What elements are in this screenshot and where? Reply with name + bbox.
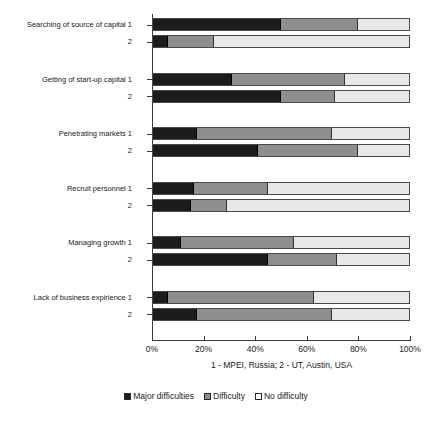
y-axis-tick bbox=[147, 314, 153, 315]
y-axis-tick bbox=[147, 151, 153, 152]
bar-segment-difficulty bbox=[281, 91, 335, 102]
bar-row bbox=[152, 90, 410, 103]
bar-segment-difficulty bbox=[168, 292, 314, 303]
y-axis-tick bbox=[147, 79, 153, 80]
legend-label-difficulty: Difficulty bbox=[213, 391, 245, 401]
bar-row bbox=[152, 35, 410, 48]
bar-segment-no-difficulty bbox=[227, 200, 409, 211]
bar-row bbox=[152, 127, 410, 140]
bar-segment-difficulty bbox=[268, 254, 337, 265]
x-axis-tick-label: 100% bbox=[399, 344, 421, 355]
category-label-searching-of-source-of-capital: Searching of source of capital 1 bbox=[27, 18, 132, 31]
x-axis-tick-label: 20% bbox=[195, 344, 212, 355]
row-label-2: 2 bbox=[128, 308, 132, 321]
bar-segment-difficulty bbox=[197, 128, 333, 139]
y-axis-tick bbox=[147, 188, 153, 189]
bar-row bbox=[152, 73, 410, 86]
y-axis-tick bbox=[147, 134, 153, 135]
bar-row bbox=[152, 144, 410, 157]
bar-segment-difficulty bbox=[258, 145, 358, 156]
bar-row bbox=[152, 291, 410, 304]
bar-segment-major-difficulties bbox=[153, 74, 232, 85]
bar-segment-major-difficulties bbox=[153, 237, 181, 248]
no-difficulty-swatch bbox=[255, 393, 262, 400]
bar-segment-no-difficulty bbox=[314, 292, 409, 303]
legend-label-major-difficulties: Major difficulties bbox=[133, 391, 194, 401]
bar-segment-major-difficulties bbox=[153, 128, 197, 139]
bar-row bbox=[152, 253, 410, 266]
category-label-managing-growth: Managing growth 1 bbox=[68, 236, 132, 249]
legend-label-no-difficulty: No difficulty bbox=[264, 391, 308, 401]
bar-segment-no-difficulty bbox=[335, 91, 409, 102]
plot-area bbox=[152, 18, 410, 336]
x-axis-tick bbox=[307, 336, 308, 341]
y-axis-tick bbox=[147, 42, 153, 43]
x-axis-tick bbox=[410, 336, 411, 341]
difficulty-swatch bbox=[204, 393, 211, 400]
x-axis-tick bbox=[204, 336, 205, 341]
bar-segment-major-difficulties bbox=[153, 254, 268, 265]
x-axis-tick bbox=[358, 336, 359, 341]
bar-segment-difficulty bbox=[181, 237, 294, 248]
row-label-2: 2 bbox=[128, 144, 132, 157]
y-axis-tick bbox=[147, 297, 153, 298]
category-label-penetrating-markets: Penetrating markets 1 bbox=[59, 127, 132, 140]
axis-footnote: 1 - MPEI, Russia; 2 - UT, Austin, USA bbox=[152, 360, 411, 371]
bar-segment-major-difficulties bbox=[153, 91, 281, 102]
legend-item-no-difficulty: No difficulty bbox=[255, 391, 308, 401]
major-difficulties-swatch bbox=[124, 393, 131, 400]
y-axis-tick bbox=[147, 243, 153, 244]
bar-segment-difficulty bbox=[281, 19, 358, 30]
bar-row bbox=[152, 308, 410, 321]
legend-item-major-difficulties: Major difficulties bbox=[124, 391, 194, 401]
category-label-lack-of-business-expirience: Lack of business expirience 1 bbox=[34, 291, 132, 304]
x-axis-line bbox=[152, 340, 411, 341]
bar-segment-major-difficulties bbox=[153, 200, 191, 211]
category-label-column: Searching of source of capital 12Getting… bbox=[0, 18, 148, 336]
x-axis-tick-label: 60% bbox=[298, 344, 315, 355]
y-axis-tick bbox=[147, 25, 153, 26]
bar-segment-major-difficulties bbox=[153, 309, 197, 320]
bar-segment-no-difficulty bbox=[332, 128, 409, 139]
bar-segment-major-difficulties bbox=[153, 36, 168, 47]
x-axis-tick bbox=[152, 336, 153, 341]
bar-row bbox=[152, 182, 410, 195]
bar-segment-difficulty bbox=[194, 183, 268, 194]
x-axis-tick-label: 40% bbox=[247, 344, 264, 355]
bar-row bbox=[152, 236, 410, 249]
row-label-2: 2 bbox=[128, 35, 132, 48]
bar-segment-difficulty bbox=[191, 200, 227, 211]
bar-segment-no-difficulty bbox=[358, 19, 409, 30]
category-label-recruit-personnel: Recruit personnel 1 bbox=[67, 182, 132, 195]
bar-segment-no-difficulty bbox=[337, 254, 409, 265]
bar-segment-difficulty bbox=[197, 309, 333, 320]
stacked-bar-chart: Searching of source of capital 12Getting… bbox=[0, 0, 432, 429]
row-label-2: 2 bbox=[128, 253, 132, 266]
bar-segment-no-difficulty bbox=[345, 74, 409, 85]
x-axis-tick-label: 0% bbox=[146, 344, 158, 355]
y-axis-tick bbox=[147, 260, 153, 261]
y-axis-tick bbox=[147, 96, 153, 97]
bar-segment-difficulty bbox=[168, 36, 214, 47]
bar-segment-difficulty bbox=[232, 74, 345, 85]
bar-segment-major-difficulties bbox=[153, 183, 194, 194]
chart-legend: Major difficulties Difficulty No difficu… bbox=[0, 391, 432, 401]
bar-segment-no-difficulty bbox=[294, 237, 409, 248]
bar-segment-major-difficulties bbox=[153, 19, 281, 30]
x-axis-tick-label: 80% bbox=[350, 344, 367, 355]
bar-segment-major-difficulties bbox=[153, 145, 258, 156]
bar-row bbox=[152, 18, 410, 31]
bar-row bbox=[152, 199, 410, 212]
row-label-2: 2 bbox=[128, 90, 132, 103]
bar-segment-no-difficulty bbox=[332, 309, 409, 320]
bar-segment-no-difficulty bbox=[268, 183, 409, 194]
row-label-2: 2 bbox=[128, 199, 132, 212]
bar-segment-major-difficulties bbox=[153, 292, 168, 303]
x-axis-tick bbox=[255, 336, 256, 341]
legend-item-difficulty: Difficulty bbox=[204, 391, 245, 401]
bar-segment-no-difficulty bbox=[214, 36, 409, 47]
y-axis-tick bbox=[147, 205, 153, 206]
category-label-getting-of-start-up-capital: Getting of start-up capital 1 bbox=[42, 73, 132, 86]
bar-segment-no-difficulty bbox=[358, 145, 409, 156]
